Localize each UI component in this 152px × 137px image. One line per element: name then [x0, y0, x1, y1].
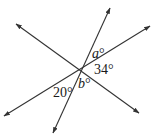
degree-symbol: ° [85, 76, 91, 91]
degree-symbol: ° [99, 46, 105, 61]
angle-label-b: b° [78, 77, 91, 91]
angle-label-a: a° [92, 47, 105, 61]
variable-a: a [92, 46, 99, 61]
line-2 [4, 26, 150, 116]
line-3 [16, 24, 139, 113]
intersecting-lines-diagram [0, 0, 152, 137]
angle-label-34: 34° [94, 63, 114, 77]
variable-b: b [78, 76, 85, 91]
angle-label-20: 20° [53, 86, 73, 100]
